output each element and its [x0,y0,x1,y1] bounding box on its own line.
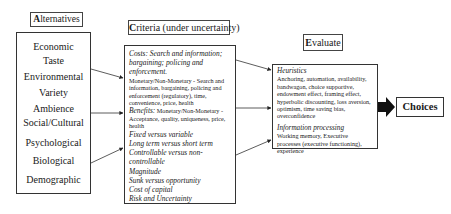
criteria-item: Long term versus short term [129,139,231,148]
list-item: Environmental [17,71,90,83]
title-rest: lternatives [40,14,80,24]
title-rest: riteria (under uncertainty) [136,22,239,33]
criteria-item: Controllable versus non-controllable [129,148,231,166]
thick-arrow-to-choices [378,97,395,117]
list-item: Economic [17,41,90,53]
info-processing-heading: Information processing [277,125,373,132]
criteria-item: Magnitude [129,167,231,176]
costs-detail: Monetary/Non-Monetary - Search and infor… [129,77,231,107]
criteria-title: Criteria (under uncertainty) [128,20,230,35]
criteria-item: Fixed versus variable [129,130,231,139]
heuristics-detail: Anchoring, automation, availability, ban… [277,75,373,119]
alternatives-box: Economic Taste Environmental Variety Amb… [16,32,91,194]
costs-heading: Costs: Search and information; bargainin… [129,49,231,77]
list-item: Biological [17,155,90,167]
arrow-criteria-to-evaluate-top [236,60,271,70]
title-initial: E [305,37,312,48]
list-item: Demographic [17,174,90,186]
criteria-item: Cost of capital [129,185,231,194]
list-item: Social/Cultural [17,117,90,129]
evaluate-box: Heuristics Anchoring, automation, availa… [272,64,378,149]
choices-box: Choices [396,97,444,117]
list-item: Ambience [17,103,90,115]
arrow-alt-to-criteria-top [91,69,123,78]
criteria-item: Risk and Uncertainty [129,194,231,203]
criteria-item: Sunk versus opportunity [129,176,231,185]
criteria-box: Costs: Search and information; bargainin… [124,45,236,204]
benefits: Benefits: Monetary/Non-Monetary - Accept… [129,107,231,130]
evaluate-title: Evaluate [303,34,343,51]
info-processing-detail: Working memory, Executive processes (exe… [277,132,373,154]
title-rest: valuate [312,37,341,48]
list-item: Taste [17,55,90,67]
list-item: Variety [17,87,90,99]
arrow-alt-to-criteria-bottom [91,148,123,163]
arrow-criteria-to-evaluate-bottom [236,140,271,155]
list-item: Psychological [17,137,90,149]
alternatives-title: Alternatives [30,12,83,27]
heuristics-heading: Heuristics [277,68,373,75]
